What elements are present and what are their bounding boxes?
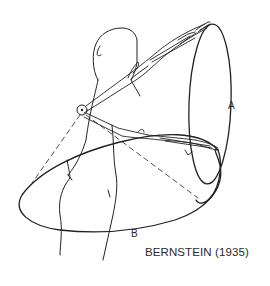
- trajectory-label-b: B: [131, 228, 138, 239]
- bernstein-diagram: A B BERNSTEIN (1935): [0, 0, 270, 286]
- dashed-projection-lines: [32, 115, 198, 198]
- trajectory-ellipse-a: [186, 23, 234, 184]
- figure-caption: BERNSTEIN (1935): [145, 246, 249, 258]
- diagram-canvas: [0, 0, 270, 286]
- trajectory-label-a: A: [228, 100, 235, 111]
- raised-arm: [84, 22, 210, 113]
- lowered-arm: [84, 113, 218, 155]
- shoulder-joint: [77, 105, 87, 115]
- human-figure: [59, 28, 148, 260]
